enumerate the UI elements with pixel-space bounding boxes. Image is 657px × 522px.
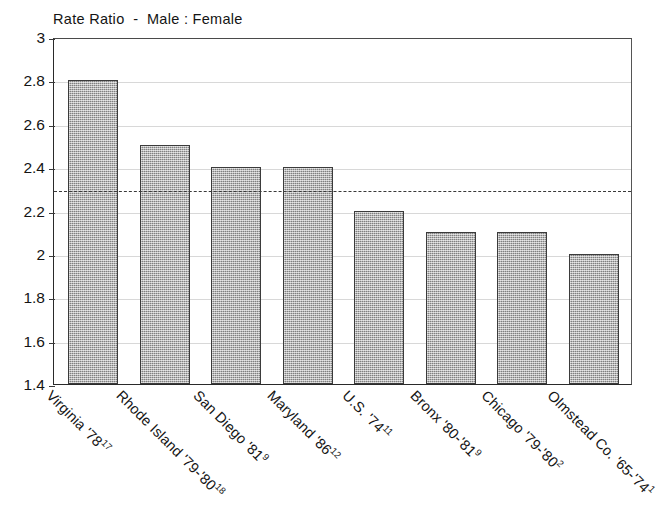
x-axis-label-text: U.S. '74 [339, 387, 387, 435]
y-axis-label: 2.8 [0, 73, 45, 89]
bar [211, 167, 261, 384]
x-axis-label: Maryland '8612 [264, 386, 343, 465]
x-axis-label-text: San Diego '81 [190, 387, 266, 463]
bar [569, 254, 619, 384]
x-axis-labels: Virginia '7817Rhode Island '79-'8018San … [0, 386, 638, 522]
x-axis-label: San Diego '819 [190, 386, 271, 467]
x-axis-label: U.S. '7411 [339, 386, 395, 442]
x-axis-label: Olmstead Co. '65-'741 [544, 386, 657, 499]
y-axis-label: 2.4 [0, 160, 45, 176]
bar [354, 211, 404, 385]
x-axis-label: Virginia '7817 [43, 386, 114, 457]
x-axis-label-text: Bronx '80-'81 [407, 387, 479, 459]
bars-group [54, 39, 631, 384]
bar [283, 167, 333, 384]
bar [68, 80, 118, 384]
x-axis-label: Bronx '80-'819 [407, 386, 484, 463]
bar [497, 232, 547, 384]
y-axis-label: 2.2 [0, 204, 45, 220]
x-axis-label-text: Maryland '86 [264, 387, 335, 458]
y-axis-label: 2.6 [0, 117, 45, 133]
x-axis-label-text: Olmstead Co. '65-'74 [544, 387, 652, 495]
bar [426, 232, 476, 384]
bar [140, 145, 190, 384]
reference-line [54, 191, 631, 192]
plot-area [53, 38, 632, 385]
y-axis-label: 1.8 [0, 290, 45, 306]
y-axis-label: 3 [0, 30, 45, 46]
x-axis-label-text: Virginia '78 [43, 387, 105, 449]
y-axis-label: 1.6 [0, 334, 45, 350]
y-axis-label: 2 [0, 247, 45, 263]
chart-title: Rate Ratio - Male : Female [53, 11, 243, 27]
